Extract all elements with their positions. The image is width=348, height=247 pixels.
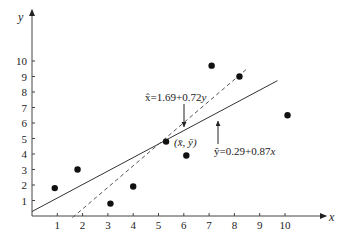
data-point bbox=[284, 112, 290, 118]
y-tick-label: 8 bbox=[22, 86, 28, 98]
x-tick-label: 2 bbox=[80, 219, 86, 231]
annotations: x̂=1.69+0.72y ŷ=0.29+0.87x (x̄, ȳ) bbox=[145, 91, 275, 157]
axes: x y 12345678910 12345678910 bbox=[16, 10, 335, 231]
y-tick-label: 2 bbox=[22, 179, 28, 191]
data-point bbox=[107, 200, 113, 206]
x-tick-label: 9 bbox=[257, 219, 263, 231]
data-point bbox=[130, 183, 136, 189]
data-point bbox=[236, 73, 242, 79]
x-tick-label: 5 bbox=[156, 219, 162, 231]
mean-point-label: (x̄, ȳ) bbox=[174, 136, 197, 149]
x-tick-label: 6 bbox=[181, 219, 187, 231]
y-tick-label: 3 bbox=[22, 164, 28, 176]
x-tick-label: 4 bbox=[130, 219, 136, 231]
y-tick-label: 7 bbox=[22, 102, 28, 114]
y-axis-label: y bbox=[17, 10, 24, 24]
y-tick-label: 5 bbox=[22, 133, 28, 145]
data-point bbox=[183, 152, 189, 158]
data-points bbox=[52, 62, 291, 206]
x-tick-label: 8 bbox=[232, 219, 238, 231]
x-axis-label: x bbox=[328, 210, 335, 224]
y-tick-label: 6 bbox=[22, 117, 28, 129]
x-tick-label: 10 bbox=[280, 219, 292, 231]
data-point bbox=[52, 185, 58, 191]
x-tick-label: 1 bbox=[55, 219, 61, 231]
data-point bbox=[74, 166, 80, 172]
y-tick-label: 4 bbox=[22, 148, 28, 160]
data-point bbox=[208, 62, 214, 68]
x-tick-label: 7 bbox=[206, 219, 212, 231]
data-point bbox=[163, 138, 169, 144]
regression-chart: x y 12345678910 12345678910 x̂=1.69+0.72… bbox=[0, 0, 348, 247]
equation-x-on-y: x̂=1.69+0.72y bbox=[145, 91, 206, 103]
y-tick-label: 10 bbox=[16, 55, 28, 67]
x-tick-label: 3 bbox=[105, 219, 111, 231]
y-tick-label: 9 bbox=[22, 71, 28, 83]
equation-y-on-x: ŷ=0.29+0.87x bbox=[214, 145, 275, 157]
y-tick-label: 1 bbox=[22, 195, 28, 207]
